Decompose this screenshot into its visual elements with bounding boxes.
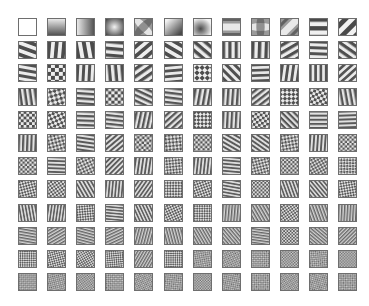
filter-cell xyxy=(193,64,212,82)
filter-cell xyxy=(338,250,357,268)
filter-cell xyxy=(105,134,124,152)
filter-cell xyxy=(47,180,66,198)
filter-cell xyxy=(105,157,124,175)
filter-cell xyxy=(338,41,357,59)
filter-cell xyxy=(18,88,37,106)
filter-cell xyxy=(338,64,357,82)
filter-cell xyxy=(134,204,153,222)
filter-cell xyxy=(251,64,270,82)
filter-cell xyxy=(76,88,95,106)
filter-cell xyxy=(164,157,183,175)
filter-cell xyxy=(18,111,37,129)
filter-cell xyxy=(222,273,241,291)
filter-cell xyxy=(164,273,183,291)
filter-cell xyxy=(134,134,153,152)
filter-cell xyxy=(222,134,241,152)
filter-cell xyxy=(18,273,37,291)
filter-cell xyxy=(47,134,66,152)
filter-cell xyxy=(18,157,37,175)
filter-cell xyxy=(18,180,37,198)
filter-cell xyxy=(105,227,124,245)
filter-cell xyxy=(134,64,153,82)
filter-cell xyxy=(309,250,328,268)
filter-cell xyxy=(309,41,328,59)
filter-cell xyxy=(105,64,124,82)
filter-cell xyxy=(193,18,212,36)
filter-cell xyxy=(222,18,241,36)
filter-cell xyxy=(18,204,37,222)
filter-cell xyxy=(222,41,241,59)
filter-cell xyxy=(338,111,357,129)
filter-cell xyxy=(18,250,37,268)
filter-cell xyxy=(164,250,183,268)
filter-cell xyxy=(280,250,299,268)
filter-cell xyxy=(47,204,66,222)
filter-cell xyxy=(105,250,124,268)
filter-cell xyxy=(47,250,66,268)
filter-cell xyxy=(76,111,95,129)
filter-cell xyxy=(309,204,328,222)
filter-cell xyxy=(338,18,357,36)
filter-cell xyxy=(251,250,270,268)
filter-cell xyxy=(105,18,124,36)
filter-cell xyxy=(134,273,153,291)
filter-cell xyxy=(164,18,183,36)
filter-cell xyxy=(251,227,270,245)
filter-cell xyxy=(164,111,183,129)
filter-cell xyxy=(222,250,241,268)
filter-cell xyxy=(222,204,241,222)
filter-cell xyxy=(338,88,357,106)
filter-cell xyxy=(193,250,212,268)
filter-cell xyxy=(309,88,328,106)
filter-cell xyxy=(164,88,183,106)
filter-cell xyxy=(338,180,357,198)
filter-cell xyxy=(193,88,212,106)
filter-cell xyxy=(18,227,37,245)
filter-cell xyxy=(280,273,299,291)
filter-cell xyxy=(193,134,212,152)
filter-cell xyxy=(338,273,357,291)
filter-cell xyxy=(76,134,95,152)
filter-cell xyxy=(280,157,299,175)
filter-cell xyxy=(280,111,299,129)
filter-cell xyxy=(76,180,95,198)
filter-cell xyxy=(76,18,95,36)
filter-cell xyxy=(47,111,66,129)
filter-cell xyxy=(222,157,241,175)
filter-cell xyxy=(134,157,153,175)
filter-cell xyxy=(134,111,153,129)
filter-cell xyxy=(18,41,37,59)
filter-cell xyxy=(251,157,270,175)
filter-cell xyxy=(164,180,183,198)
filter-cell xyxy=(47,64,66,82)
filter-cell xyxy=(164,204,183,222)
filter-cell xyxy=(193,273,212,291)
filter-cell xyxy=(76,41,95,59)
filter-cell xyxy=(309,157,328,175)
filter-cell xyxy=(309,273,328,291)
filter-cell xyxy=(47,88,66,106)
filter-cell xyxy=(105,180,124,198)
filter-cell xyxy=(280,88,299,106)
filter-cell xyxy=(134,227,153,245)
filter-cell xyxy=(105,41,124,59)
filter-cell xyxy=(309,18,328,36)
filter-cell xyxy=(222,180,241,198)
filter-cell xyxy=(18,64,37,82)
filter-cell xyxy=(134,18,153,36)
filter-cell xyxy=(338,134,357,152)
filter-cell xyxy=(76,157,95,175)
filter-cell xyxy=(338,157,357,175)
filter-cell xyxy=(134,41,153,59)
filter-cell xyxy=(338,204,357,222)
filter-cell xyxy=(309,64,328,82)
filter-cell xyxy=(251,134,270,152)
filter-cell xyxy=(309,227,328,245)
filter-cell xyxy=(47,273,66,291)
filter-cell xyxy=(47,41,66,59)
filter-cell xyxy=(280,134,299,152)
filter-cell xyxy=(251,273,270,291)
filter-cell xyxy=(76,273,95,291)
filter-cell xyxy=(251,41,270,59)
filter-cell xyxy=(251,204,270,222)
